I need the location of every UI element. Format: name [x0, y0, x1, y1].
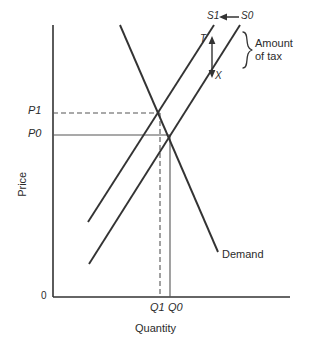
supply-curve-s1-label: S1 [207, 10, 219, 22]
price-label-p0: P0 [28, 127, 41, 140]
tax-point-x-label: X [215, 70, 222, 82]
tax-point-t-label: T [200, 33, 206, 45]
tax-gap-arrow-head-up [209, 36, 216, 44]
price-label-p1: P1 [28, 104, 41, 117]
amount-of-tax-brace [243, 32, 252, 68]
y-axis-title: Price [16, 154, 29, 214]
demand-curve-label: Demand [222, 248, 264, 261]
x-axis-title: Quantity [135, 322, 176, 335]
quantity-label-q0: Q0 [168, 301, 183, 314]
supply-shift-arrow-head [219, 13, 227, 20]
amount-of-tax-line1: Amount [255, 37, 293, 50]
supply-curve-s1 [88, 25, 214, 222]
demand-curve [120, 25, 218, 252]
origin-label: 0 [41, 290, 47, 302]
quantity-label-q1: Q1 [150, 301, 165, 314]
amount-of-tax-label: Amount of tax [255, 37, 293, 62]
supply-demand-tax-figure: P1 P0 0 Q1 Q0 Quantity Price S1 S0 Deman… [0, 0, 309, 346]
amount-of-tax-line2: of tax [255, 50, 293, 63]
supply-curve-s0-label: S0 [241, 10, 253, 22]
supply-curve-s0 [89, 25, 240, 264]
